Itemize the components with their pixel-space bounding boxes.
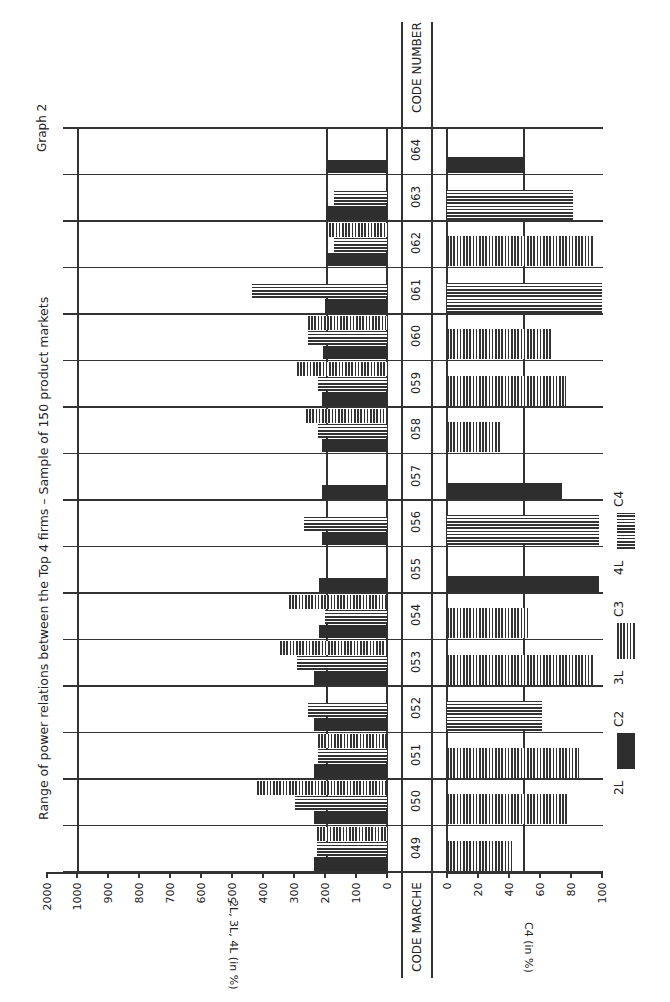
legend-key-4L: 4L <box>612 561 626 575</box>
upper-tick-label: 0 <box>381 883 394 923</box>
bar-C4 <box>447 748 579 778</box>
code-col-left <box>401 22 403 978</box>
bar-C4 <box>447 329 552 359</box>
bar-4L <box>318 377 387 391</box>
upper-tick <box>107 872 109 878</box>
lower-tick-label: 80 <box>565 883 578 923</box>
bar-2L <box>314 764 387 778</box>
upper-tick <box>231 872 233 878</box>
bar-2L <box>322 392 387 406</box>
bar-2L <box>314 718 387 732</box>
upper-tick <box>138 872 140 878</box>
code-label: 058 <box>409 406 423 452</box>
code-label: 063 <box>409 174 423 220</box>
upper-tick-label: 900 <box>102 883 115 923</box>
bar-4L <box>318 424 387 438</box>
code-marche-header: CODE MARCHE <box>410 882 424 972</box>
code-label: 057 <box>409 453 423 499</box>
group-separator <box>63 499 603 501</box>
code-label: 055 <box>409 546 423 592</box>
bar-3L <box>317 827 387 841</box>
bar-C4 <box>447 422 501 452</box>
bar-3L <box>326 223 387 237</box>
upper-tick <box>355 872 357 878</box>
bar-4L <box>297 656 387 670</box>
group-separator <box>63 592 603 594</box>
bar-4L <box>317 842 387 856</box>
code-col-right <box>431 22 433 978</box>
bar-4L <box>252 284 387 298</box>
graph-label: Graph 2 <box>35 104 49 152</box>
group-separator <box>63 453 603 455</box>
bar-3L <box>280 641 387 655</box>
upper-tick <box>386 872 388 878</box>
bar-2L <box>322 439 387 453</box>
bar-C4 <box>447 283 602 313</box>
legend-label-C3: C3 <box>612 601 626 617</box>
lower-tick <box>601 872 603 878</box>
bar-4L <box>334 238 387 252</box>
code-label: 062 <box>409 220 423 266</box>
bar-4L <box>308 331 387 345</box>
group-separator <box>63 778 603 780</box>
bar-C4 <box>447 701 542 731</box>
code-label: 053 <box>409 639 423 685</box>
group-separator <box>63 360 603 362</box>
bar-2L <box>327 160 387 174</box>
code-label: 054 <box>409 592 423 638</box>
legend-swatch-3L <box>617 623 635 659</box>
code-label: 064 <box>409 127 423 173</box>
upper-tick-label: 100 <box>350 883 363 923</box>
code-number-header: CODE NUMBER <box>410 22 424 113</box>
bar-3L <box>257 781 387 795</box>
bar-2L <box>322 532 387 546</box>
bar-3L <box>308 316 387 330</box>
legend-label-C4: C4 <box>612 491 626 507</box>
group-separator <box>63 174 603 176</box>
legend-label-C2: C2 <box>612 711 626 727</box>
upper-tick-label: 2000 <box>41 883 54 923</box>
lower-tick-label: 100 <box>596 883 609 923</box>
chart-title: Range of power relations between the Top… <box>36 297 51 820</box>
upper-tick-label: 400 <box>257 883 270 923</box>
bar-C4 <box>447 576 599 592</box>
group-separator <box>63 267 603 269</box>
code-label: 052 <box>409 685 423 731</box>
upper-tick <box>46 872 48 878</box>
upper-tick <box>76 872 78 878</box>
lower-tick <box>539 872 541 878</box>
bar-C4 <box>447 157 525 173</box>
lower-tick-label: 40 <box>503 883 516 923</box>
upper-tick <box>324 872 326 878</box>
upper-tick-label: 800 <box>133 883 146 923</box>
upper-axis-title: 2L, 3L, 4L (in %) <box>227 900 240 989</box>
group-separator <box>63 639 603 641</box>
bar-3L <box>306 409 387 423</box>
bar-2L <box>314 811 387 825</box>
code-label: 049 <box>409 825 423 871</box>
group-separator <box>63 406 603 408</box>
bar-2L <box>323 346 387 360</box>
group-separator <box>63 732 603 734</box>
lower-tick <box>446 872 448 878</box>
bar-4L <box>318 749 387 763</box>
legend-key-3L: 3L <box>612 671 626 685</box>
lower-tick <box>477 872 479 878</box>
lower-axis-line <box>447 872 603 874</box>
bar-3L <box>289 595 387 609</box>
upper-tick-label: 700 <box>164 883 177 923</box>
bar-4L <box>304 517 387 531</box>
bar-2L <box>319 625 387 639</box>
bar-C4 <box>447 190 573 220</box>
upper-axis-line <box>47 872 387 874</box>
bar-2L <box>314 671 387 685</box>
upper-tick-label: 600 <box>195 883 208 923</box>
upper-tick-label: 300 <box>288 883 301 923</box>
lower-tick-label: 60 <box>534 883 547 923</box>
code-label: 056 <box>409 499 423 545</box>
bar-C4 <box>447 841 512 871</box>
bar-2L <box>326 253 387 267</box>
upper-tick <box>200 872 202 878</box>
group-separator <box>63 127 603 129</box>
bar-4L <box>325 610 387 624</box>
